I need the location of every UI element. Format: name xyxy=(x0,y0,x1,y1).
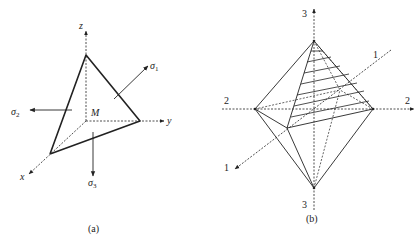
panel-b-octahedron: 3 3 2 2 1 1 (b) xyxy=(222,8,414,225)
caption-b: (b) xyxy=(306,213,318,225)
sigma3-label: σ3 xyxy=(88,177,97,190)
z-axis-label: z xyxy=(78,20,83,31)
hatched-octahedral-face xyxy=(291,51,369,117)
axis3-bottom-label: 3 xyxy=(302,199,307,210)
sigma1-arrow xyxy=(114,66,148,99)
x-axis-label: x xyxy=(19,171,25,182)
oblique-face xyxy=(50,55,140,154)
sigma2-label: σ2 xyxy=(11,106,20,119)
caption-a: (a) xyxy=(88,223,99,235)
axis2-right-label: 2 xyxy=(405,95,410,106)
axis3-top-label: 3 xyxy=(302,8,307,19)
x-axis xyxy=(29,121,86,174)
axis-1 xyxy=(235,50,391,169)
axis2-left-label: 2 xyxy=(224,95,229,106)
origin-label-m: M xyxy=(90,107,100,118)
axis1-back-label: 1 xyxy=(373,49,378,60)
y-axis-label: y xyxy=(166,115,172,126)
axis1-front-label: 1 xyxy=(224,162,229,173)
figure: z y x M σ1 σ2 σ3 (a) xyxy=(0,0,420,243)
sigma1-label: σ1 xyxy=(150,60,159,73)
panel-a-tetrahedron: z y x M σ1 σ2 σ3 (a) xyxy=(11,20,172,235)
